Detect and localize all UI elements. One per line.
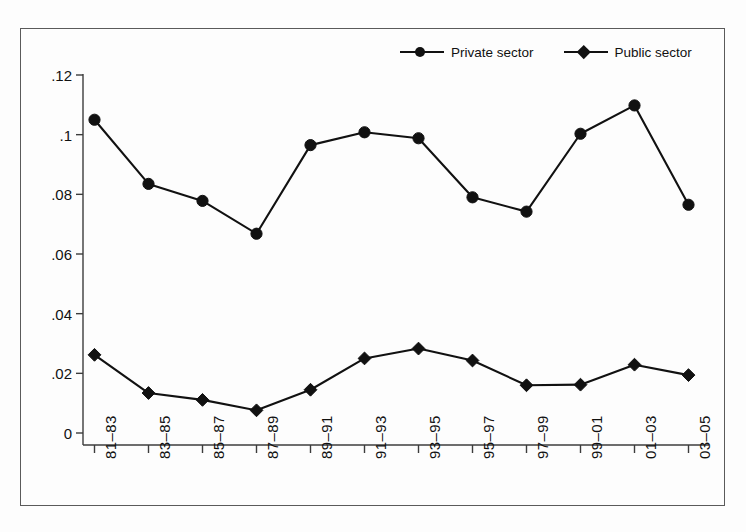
y-tick-label: .02 [26, 365, 72, 382]
series-line-public-sector [95, 349, 689, 411]
x-tick-label: 83–85 [156, 415, 173, 459]
x-tick-label: 81–83 [102, 415, 119, 459]
x-tick-label: 85–87 [210, 415, 227, 459]
data-point-circle[interactable] [467, 192, 478, 203]
x-tick-label: 87–89 [264, 415, 281, 459]
data-point-circle[interactable] [89, 114, 100, 125]
data-point-circle[interactable] [575, 128, 586, 139]
chart-figure: Private sector Public sector 0.02.04.06.… [0, 0, 746, 532]
x-tick-label: 89–91 [318, 415, 335, 459]
data-point-diamond[interactable] [628, 358, 641, 371]
x-tick-label: 95–97 [480, 415, 497, 459]
data-point-circle[interactable] [305, 140, 316, 151]
data-point-diamond[interactable] [412, 342, 425, 355]
x-tick-label: 97–99 [534, 415, 551, 459]
x-tick-label: 01–03 [642, 415, 659, 459]
x-tick-label: 91–93 [372, 415, 389, 459]
data-point-circle[interactable] [413, 133, 424, 144]
data-point-circle[interactable] [629, 100, 640, 111]
y-tick-label: .08 [26, 186, 72, 203]
data-point-diamond[interactable] [358, 352, 371, 365]
data-point-diamond[interactable] [574, 378, 587, 391]
data-point-circle[interactable] [359, 127, 370, 138]
data-point-diamond[interactable] [142, 387, 155, 400]
y-tick-label: .1 [26, 126, 72, 143]
data-point-circle[interactable] [251, 228, 262, 239]
x-tick-label: 03–05 [696, 415, 713, 459]
data-point-circle[interactable] [197, 195, 208, 206]
data-point-diamond[interactable] [682, 369, 695, 382]
data-point-diamond[interactable] [304, 383, 317, 396]
data-point-diamond[interactable] [520, 379, 533, 392]
data-point-diamond[interactable] [466, 354, 479, 367]
data-point-circle[interactable] [143, 178, 154, 189]
x-tick-label: 93–95 [426, 415, 443, 459]
x-tick-label: 99–01 [588, 415, 605, 459]
data-point-diamond[interactable] [250, 404, 263, 417]
data-point-diamond[interactable] [88, 348, 101, 361]
y-tick-label: .06 [26, 246, 72, 263]
series-line-private-sector [95, 105, 689, 233]
data-point-diamond[interactable] [196, 393, 209, 406]
series-layer [88, 100, 695, 417]
data-point-circle[interactable] [521, 206, 532, 217]
data-point-circle[interactable] [683, 199, 694, 210]
y-tick-label: 0 [26, 425, 72, 442]
y-tick-label: .04 [26, 305, 72, 322]
y-tick-label: .12 [26, 67, 72, 84]
